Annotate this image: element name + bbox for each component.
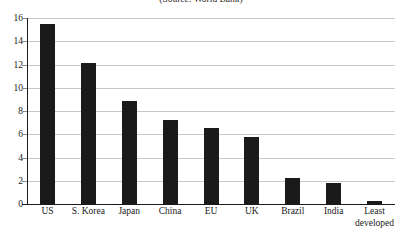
- y-axis-tick: [22, 134, 27, 135]
- y-axis-tick: [22, 158, 27, 159]
- bars-layer: [27, 18, 395, 204]
- bar[interactable]: [244, 137, 259, 204]
- bar[interactable]: [285, 178, 300, 204]
- y-axis-tick-label: 16: [2, 13, 23, 23]
- y-axis-tick-label: 14: [2, 36, 23, 46]
- y-axis-tick: [22, 18, 27, 19]
- x-axis-tick-label-line: Least: [347, 206, 402, 218]
- y-axis-tick: [22, 204, 27, 205]
- y-axis-tick: [22, 88, 27, 89]
- bar[interactable]: [204, 128, 219, 204]
- y-axis-tick-label: 12: [2, 60, 23, 70]
- y-axis-tick: [22, 41, 27, 42]
- bar[interactable]: [367, 201, 382, 204]
- bar[interactable]: [40, 24, 55, 204]
- y-axis-tick-label: 4: [2, 153, 23, 163]
- y-axis-tick: [22, 181, 27, 182]
- bar[interactable]: [163, 120, 178, 204]
- chart-title: (Source: World Bank): [0, 0, 402, 5]
- plot-area: 0246810121416: [27, 18, 395, 204]
- y-axis-tick-label: 2: [2, 176, 23, 186]
- bar[interactable]: [326, 183, 341, 204]
- y-axis-tick-labels: 0246810121416: [2, 18, 23, 204]
- x-axis-tick-labels: USS. KoreaJapanChinaEUUKBrazilIndiaLeast…: [27, 206, 395, 234]
- bar[interactable]: [81, 63, 96, 204]
- x-axis-baseline: [27, 204, 395, 205]
- x-axis-tick-label-line: developed: [347, 218, 402, 230]
- bar-chart: (Source: World Bank) 0246810121416 USS. …: [0, 0, 402, 235]
- x-axis-tick-label: Leastdeveloped: [347, 206, 402, 229]
- y-axis-tick-label: 6: [2, 129, 23, 139]
- y-axis-tick: [22, 111, 27, 112]
- bar[interactable]: [122, 101, 137, 204]
- y-axis-tick-label: 10: [2, 83, 23, 93]
- y-axis-tick-label: 8: [2, 106, 23, 116]
- y-axis-tick: [22, 65, 27, 66]
